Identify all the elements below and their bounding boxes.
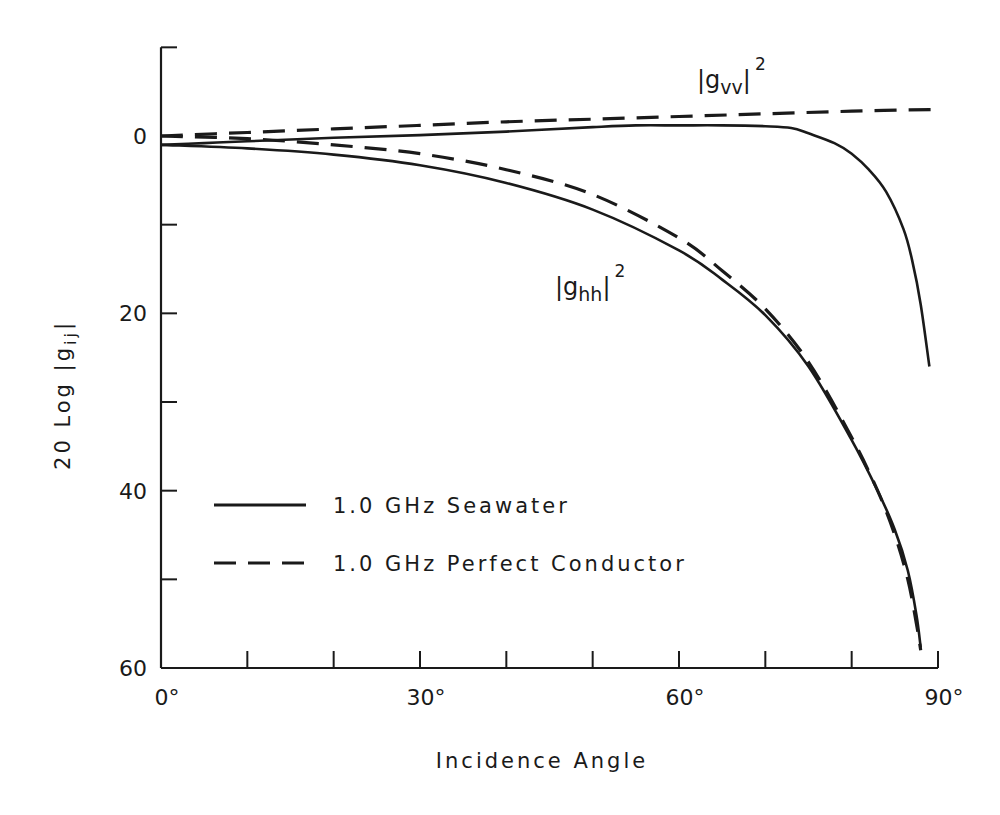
- y-tick-label: 60: [119, 656, 147, 681]
- annotation-vv: |gvv|2: [697, 54, 766, 98]
- y-axis-title: 20 Log |gij|: [51, 320, 80, 470]
- x-axis-title: Incidence Angle: [436, 749, 648, 773]
- y-tick-label: 0: [133, 124, 147, 149]
- series-line-1: [161, 109, 938, 136]
- chart-canvas: 02040600°30°60°90° |gvv|2|ghh|2 1.0 GHz …: [0, 0, 1000, 815]
- series-line-0: [161, 125, 929, 366]
- axes: 02040600°30°60°90°: [119, 47, 964, 710]
- legend: 1.0 GHz Seawater1.0 GHz Perfect Conducto…: [214, 494, 687, 576]
- curve-annotations: |gvv|2|ghh|2: [555, 54, 766, 305]
- x-tick-label: 0°: [155, 685, 180, 710]
- y-tick-label: 20: [119, 301, 147, 326]
- annotation-hh: |ghh|2: [555, 261, 625, 305]
- x-tick-label: 90°: [925, 685, 964, 710]
- legend-label: 1.0 GHz Perfect Conductor: [333, 552, 687, 576]
- x-tick-label: 60°: [666, 685, 705, 710]
- legend-label: 1.0 GHz Seawater: [333, 494, 570, 518]
- y-tick-label: 40: [119, 479, 147, 504]
- x-tick-label: 30°: [407, 685, 446, 710]
